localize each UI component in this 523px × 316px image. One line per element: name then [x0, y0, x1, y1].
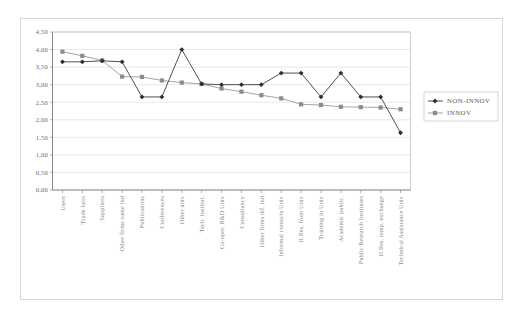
- square-marker-icon: [60, 50, 64, 54]
- chart-figure: 0,000,501,001,502,002,503,003,504,004,50…: [0, 0, 523, 316]
- x-axis-tick-label: Tech. Institut.: [198, 196, 205, 233]
- square-marker-icon: [140, 75, 144, 79]
- square-marker-icon: [279, 96, 283, 100]
- chart-legend: NON-INNOVINNOV: [424, 92, 498, 121]
- x-axis-tick-label: Other firms dif. ind: [258, 195, 265, 247]
- x-axis-tick-label: H.Res. from Univ: [297, 195, 304, 242]
- square-marker-icon: [180, 80, 184, 84]
- x-axis-tick-label: Suppliers: [98, 196, 105, 221]
- x-axis-tick-label: H.Res. temp. exchange: [377, 196, 384, 256]
- x-axis-tick-label: Training in Univ: [317, 195, 324, 240]
- x-axis-tick-label: Co-oper. R&D Univ: [218, 195, 225, 249]
- x-axis-tick-label: Academic public.: [337, 196, 344, 242]
- square-marker-icon: [339, 105, 343, 109]
- diamond-marker-icon: [179, 47, 184, 52]
- diamond-marker-icon: [80, 59, 85, 64]
- series-line-innov: [62, 52, 400, 110]
- square-marker-icon: [160, 78, 164, 82]
- y-axis-tick-label: 3,00: [36, 81, 49, 88]
- square-marker-icon: [319, 103, 323, 107]
- diamond-marker-icon: [378, 95, 383, 100]
- square-marker-icon: [398, 107, 402, 111]
- legend-entry-label: INNOV: [447, 109, 471, 116]
- square-marker-icon: [80, 54, 84, 58]
- x-axis-tick-label: Technical Assistance Univ: [397, 195, 404, 265]
- diamond-marker-icon: [60, 59, 65, 64]
- square-marker-icon: [359, 105, 363, 109]
- y-axis-tick-label: 0,00: [36, 186, 49, 193]
- x-axis-tick-label: Other univ: [178, 195, 185, 224]
- series-line-non-innov: [62, 50, 400, 133]
- square-marker-icon: [299, 102, 303, 106]
- diamond-marker-icon: [398, 130, 403, 135]
- diamond-marker-icon: [239, 82, 244, 87]
- diamond-marker-icon: [120, 59, 125, 64]
- y-axis-tick-label: 4,50: [36, 28, 49, 35]
- y-axis-tick-label: 0,50: [36, 169, 49, 176]
- diamond-marker-icon: [219, 82, 224, 87]
- x-axis-tick-label: Other firms same ind: [118, 195, 125, 251]
- x-axis-tick-label: Publications: [138, 196, 145, 229]
- x-axis-tick-label: Informal contacts Univ: [277, 195, 284, 256]
- y-axis-tick-label: 4,00: [36, 46, 49, 53]
- diamond-marker-icon: [140, 95, 145, 100]
- diamond-marker-icon: [259, 82, 264, 87]
- x-axis-tick-label: Trade fairs: [79, 196, 86, 225]
- square-marker-icon: [433, 111, 437, 115]
- diamond-marker-icon: [159, 95, 164, 100]
- y-axis-tick-label: 1,00: [36, 151, 49, 158]
- square-marker-icon: [259, 93, 263, 97]
- x-axis-tick-label: Consultancy: [238, 195, 245, 228]
- y-axis-tick-label: 1,50: [36, 134, 49, 141]
- series-markers-non-innov: [60, 47, 403, 135]
- y-axis-tick-label: 2,50: [36, 99, 49, 106]
- square-marker-icon: [239, 90, 243, 94]
- diamond-marker-icon: [279, 71, 284, 76]
- x-axis-tick-label: Conferences: [158, 196, 165, 229]
- legend-entry-label: NON-INNOV: [447, 97, 490, 104]
- x-axis-tick-label: Users: [59, 196, 66, 211]
- y-gridlines: 0,000,501,001,502,002,503,003,504,004,50: [36, 28, 411, 193]
- x-axis-tick-label: Public Research Institutes: [357, 196, 364, 265]
- square-marker-icon: [379, 105, 383, 109]
- y-axis-tick-label: 2,00: [36, 116, 49, 123]
- square-marker-icon: [120, 74, 124, 78]
- y-axis-tick-label: 3,50: [36, 63, 49, 70]
- legend-box: [424, 92, 498, 121]
- chart-plot-area: 0,000,501,001,502,002,503,003,504,004,50…: [0, 0, 523, 316]
- x-axis-labels: UsersTrade fairsSuppliersOther firms sam…: [59, 190, 404, 265]
